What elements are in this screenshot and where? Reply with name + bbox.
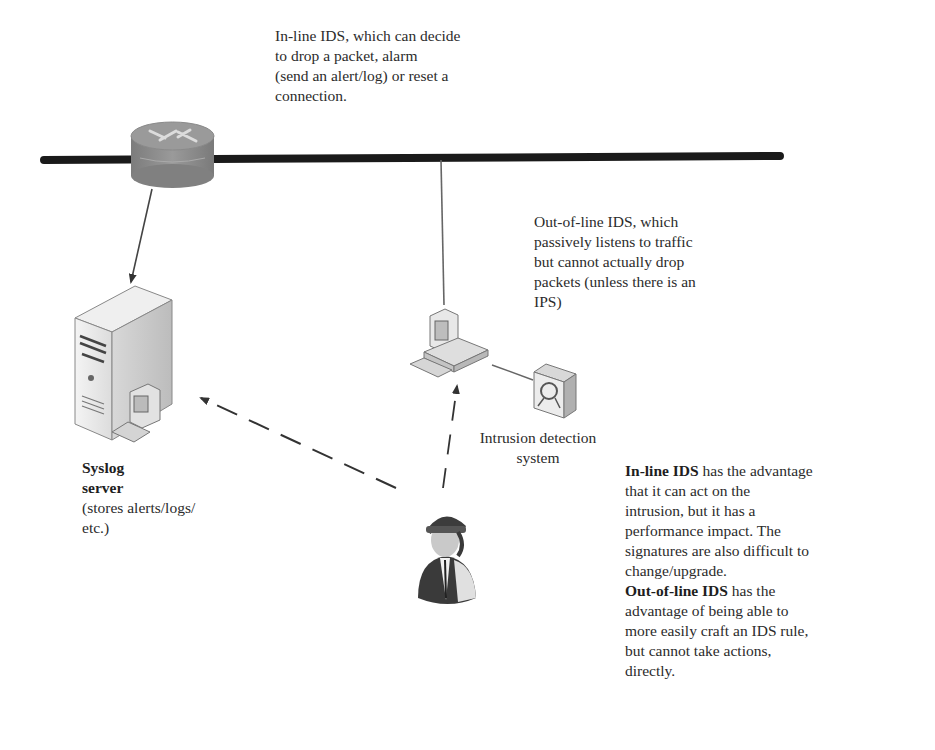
outofline-comparison-line: but cannot take actions, (625, 641, 813, 661)
inline-ids-note-line: In-line IDS, which can decide (275, 26, 461, 46)
router-icon (131, 122, 214, 188)
outofline-ids-note-line: passively listens to traffic (534, 232, 696, 252)
inline-comparison-line: that it can act on the (625, 481, 813, 501)
admin-to-syslog-link (201, 398, 396, 488)
inline-comparison-line: signatures are also difficult to (625, 541, 813, 561)
inline-ids-note-line: (send an alert/log) or reset a (275, 66, 461, 86)
syslog-title-line: server (82, 479, 123, 496)
inline-ids-heading: In-line IDS (625, 462, 699, 479)
syslog-caption: Syslog server (stores alerts/logs/ etc.) (82, 458, 195, 538)
server-icon (75, 286, 172, 442)
inline-comparison-line: change/upgrade. (625, 561, 813, 581)
bus-to-ids-link (441, 160, 444, 305)
outofline-ids-note-line: IPS) (534, 292, 696, 312)
inline-ids-note-line: connection. (275, 86, 461, 106)
outofline-comparison-line: more easily craft an IDS rule, (625, 621, 813, 641)
outofline-comparison-line: directly. (625, 661, 813, 681)
inline-comparison-line: intrusion, but it has a (625, 501, 813, 521)
ids-caption: Intrusion detection system (468, 428, 608, 468)
syslog-title: server (82, 478, 195, 498)
inline-ids-note: In-line IDS, which can decide to drop a … (275, 26, 461, 106)
admin-to-ids-link (443, 386, 457, 488)
ids-caption-line: system (468, 448, 608, 468)
router-to-syslog-link (131, 189, 152, 282)
outofline-comparison-line: advantage of being able to (625, 601, 813, 621)
inline-comparison-line: performance impact. The (625, 521, 813, 541)
outofline-comparison-text: has the (728, 582, 775, 599)
inline-comparison-text: has the advantage (699, 462, 813, 479)
inline-comparison-first-line: In-line IDS has the advantage (625, 461, 813, 481)
outofline-ids-note-line: Out-of-line IDS, which (534, 212, 696, 232)
outofline-ids-note-line: but cannot actually drop (534, 252, 696, 272)
sensor-icon (534, 364, 576, 418)
workstation-icon (410, 309, 488, 377)
outofline-comparison-first-line: Out-of-line IDS has the (625, 581, 813, 601)
syslog-description-line: (stores alerts/logs/ (82, 498, 195, 518)
syslog-description-line: etc.) (82, 518, 195, 538)
inline-ids-note-line: to drop a packet, alarm (275, 46, 461, 66)
syslog-title-line: Syslog (82, 459, 124, 476)
ids-caption-line: Intrusion detection (468, 428, 608, 448)
person-icon (418, 516, 476, 604)
syslog-title: Syslog (82, 458, 195, 478)
comparison-note: In-line IDS has the advantage that it ca… (625, 461, 813, 681)
outofline-ids-heading: Out-of-line IDS (625, 582, 728, 599)
outofline-ids-note-line: packets (unless there is an (534, 272, 696, 292)
workstation-to-sensor-link (492, 365, 533, 380)
outofline-ids-note: Out-of-line IDS, which passively listens… (534, 212, 696, 312)
